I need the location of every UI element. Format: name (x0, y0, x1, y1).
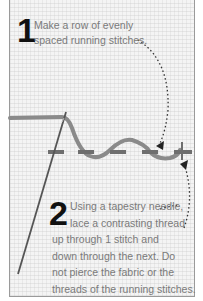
arrow-step1 (138, 40, 168, 143)
step-2-text: Using a tapestry needle, lace a contrast… (52, 198, 196, 297)
step-1-text: Make a row of evenly spaced running stit… (34, 18, 147, 48)
